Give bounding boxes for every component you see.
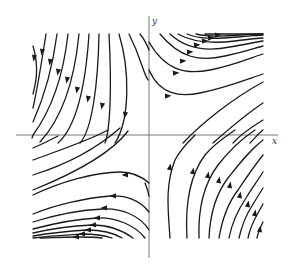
streamline-bottom-left — [145, 183, 149, 196]
arrowhead-icon — [74, 87, 80, 94]
arrowhead-icon — [227, 181, 233, 188]
arrowhead-icon — [237, 191, 243, 198]
arrowhead-icon — [100, 205, 107, 210]
arrowhead-icon — [84, 227, 91, 232]
streamline-top-left — [105, 34, 110, 143]
arrowhead-icon — [99, 103, 105, 110]
streamline-top-right — [149, 42, 263, 72]
streamline-top-left — [140, 34, 149, 50]
x-axis-label: x — [272, 137, 277, 146]
arrowhead-icon — [78, 231, 85, 236]
arrowhead-icon — [215, 32, 222, 38]
arrowhead-icon — [39, 49, 45, 56]
arrowhead-icon — [194, 42, 201, 48]
streamline-top-left — [33, 34, 46, 108]
streamline-bottom-right-diag — [233, 120, 263, 143]
arrowhead-icon — [121, 172, 128, 177]
arrowhead-icon — [173, 70, 180, 76]
arrowhead-icon — [187, 49, 194, 55]
streamline-top-left — [58, 34, 89, 143]
arrowhead-icon — [93, 215, 100, 220]
streamline-bottom-right — [199, 130, 255, 238]
arrowhead-icon — [89, 222, 96, 227]
y-axis-label: y — [152, 17, 157, 26]
streamline-bottom-left-diag — [33, 131, 128, 190]
arrowhead-icon — [109, 193, 116, 198]
streamline-top-right — [149, 70, 263, 95]
arrowhead-icon — [216, 176, 222, 183]
streamline-bottom-left — [33, 196, 149, 214]
streamlines-group — [32, 34, 263, 238]
arrowhead-icon — [85, 96, 91, 103]
arrowhead-icon — [257, 225, 263, 232]
streamline-bottom-right — [209, 140, 263, 238]
streamline-bottom-left — [33, 172, 149, 195]
arrowhead-icon — [202, 38, 209, 44]
streamline-top-left — [33, 46, 37, 94]
streamline-top-left — [115, 34, 127, 143]
arrowhead-icon — [180, 58, 187, 64]
streamline-bottom-left — [40, 237, 102, 238]
arrowhead-icon — [165, 93, 172, 99]
phase-portrait-canvas — [0, 0, 293, 268]
arrowhead-icon — [245, 200, 251, 207]
arrowhead-icon — [64, 77, 70, 84]
streamline-bottom-left-diag — [33, 136, 58, 148]
